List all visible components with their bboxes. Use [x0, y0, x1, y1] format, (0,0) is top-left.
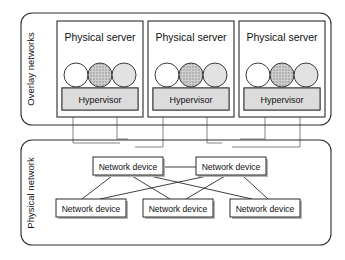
server-3-vm-dark-icon — [270, 63, 294, 87]
physical-zone-border — [21, 140, 331, 245]
nd-bottom-1-label: Network device — [62, 204, 121, 214]
server-2-vm-white-icon — [155, 63, 179, 87]
link-top1-bottom1 — [82, 176, 112, 199]
network-device-top-2[interactable]: Network device — [196, 157, 268, 177]
server-1-vm-dark-icon — [88, 63, 112, 87]
physical-server-3: Physical server Hypervisor — [239, 21, 325, 117]
network-device-top-1[interactable]: Network device — [93, 157, 165, 177]
network-device-bottom-3[interactable]: Network device — [230, 199, 302, 219]
server-1-hypervisor-label: Hypervisor — [78, 95, 121, 105]
server-3-vm-white-icon — [246, 63, 270, 87]
server-2-label: Physical server — [155, 31, 227, 43]
server-2-vm-dark-icon — [179, 63, 203, 87]
server-2-vm-light-icon — [203, 63, 227, 87]
nd-top-1-label: Network device — [99, 162, 158, 172]
server-3-label: Physical server — [246, 31, 318, 43]
link-top1-bottom3 — [150, 176, 252, 199]
link-top2-bottom3 — [243, 176, 268, 199]
physical-zone-label: Physical network — [25, 157, 36, 229]
nd-bottom-3-label: Network device — [236, 204, 295, 214]
server-3-vm-light-icon — [294, 63, 318, 87]
server-1-label: Physical server — [64, 31, 136, 43]
nd-bottom-2-label: Network device — [149, 204, 208, 214]
physical-server-2: Physical server Hypervisor — [148, 21, 234, 117]
network-device-bottom-1[interactable]: Network device — [56, 199, 128, 219]
server-1-vm-light-icon — [112, 63, 136, 87]
overlay-zone-label: Overlay networks — [25, 32, 36, 106]
server-1-vm-white-icon — [64, 63, 88, 87]
network-device-bottom-2[interactable]: Network device — [143, 199, 215, 219]
link-top2-bottom1 — [100, 176, 207, 199]
physical-network-zone: Physical network — [21, 140, 331, 245]
server-3-hypervisor-label: Hypervisor — [260, 95, 303, 105]
nd-top-2-label: Network device — [202, 162, 261, 172]
diagram-canvas: Overlay networks Physical server Hypervi… — [0, 0, 345, 260]
physical-server-1: Physical server Hypervisor — [57, 21, 143, 117]
server-2-hypervisor-label: Hypervisor — [169, 95, 212, 105]
